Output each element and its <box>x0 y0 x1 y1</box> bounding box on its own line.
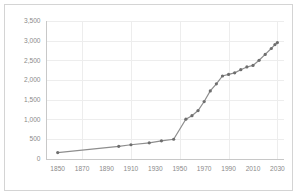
x-axis-tick-label: 2030 <box>270 165 285 172</box>
data-point-marker <box>270 47 273 50</box>
x-axis-tick-labels: 1850187018901910193019501970199020102030 <box>50 165 285 172</box>
data-point-marker <box>172 138 175 141</box>
y-axis-tick-label: 2,500 <box>24 57 41 64</box>
data-point-marker <box>227 73 230 76</box>
data-point-marker <box>221 74 224 77</box>
y-axis-tick-label: 1,000 <box>24 116 41 123</box>
x-axis-tick-label: 1950 <box>172 165 187 172</box>
chart-figure: 05001,0001,5002,0002,5003,0003,500 18501… <box>0 0 297 195</box>
data-series <box>58 43 278 153</box>
data-point-marker <box>56 151 59 154</box>
x-axis-tick-label: 1890 <box>99 165 114 172</box>
data-point-marker <box>117 145 120 148</box>
data-point-markers <box>56 41 279 154</box>
data-point-marker <box>190 114 193 117</box>
series-line <box>58 43 278 153</box>
x-axis-tick-label: 1930 <box>148 165 163 172</box>
x-axis-tick-label: 1850 <box>50 165 65 172</box>
data-point-marker <box>129 143 132 146</box>
y-axis-tick-label: 3,500 <box>24 17 41 24</box>
y-axis-tick-label: 500 <box>29 135 40 142</box>
x-axis-tick-label: 1870 <box>75 165 90 172</box>
x-axis-tick-label: 1910 <box>124 165 139 172</box>
x-axis-tick-label: 1990 <box>221 165 236 172</box>
y-axis-tick-label: 3,000 <box>24 37 41 44</box>
data-point-marker <box>257 59 260 62</box>
data-point-marker <box>148 141 151 144</box>
data-point-marker <box>196 109 199 112</box>
data-point-marker <box>239 68 242 71</box>
data-point-marker <box>245 65 248 68</box>
x-axis-tick-label: 1970 <box>197 165 212 172</box>
y-axis-tick-label: 0 <box>37 155 41 162</box>
data-point-marker <box>203 100 206 103</box>
data-point-marker <box>184 118 187 121</box>
data-point-marker <box>264 53 267 56</box>
y-axis-tick-label: 2,000 <box>24 76 41 83</box>
data-point-marker <box>215 82 218 85</box>
x-axis-tick-label: 2010 <box>246 165 261 172</box>
grid-lines <box>46 21 284 160</box>
data-point-marker <box>276 41 279 44</box>
line-chart: 05001,0001,5002,0002,5003,0003,500 18501… <box>0 0 297 195</box>
data-point-marker <box>233 71 236 74</box>
y-axis-tick-labels: 05001,0001,5002,0002,5003,0003,500 <box>24 17 41 162</box>
data-point-marker <box>160 139 163 142</box>
y-axis-tick-label: 1,500 <box>24 96 41 103</box>
data-point-marker <box>251 64 254 67</box>
data-point-marker <box>209 89 212 92</box>
